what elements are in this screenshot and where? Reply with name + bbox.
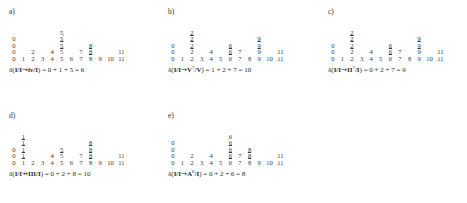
axis-tick: 4	[206, 160, 216, 167]
formula-target-chord: III/I	[28, 170, 41, 178]
distance-formula: δ(I/I→V7/V) = 1 + 2 + 7 = 10	[168, 66, 286, 74]
panel-spacer	[328, 17, 446, 30]
formula-source-chord: I/I	[174, 170, 181, 178]
axis-tick: 6	[67, 160, 77, 167]
lattice-row: 0269	[328, 43, 446, 50]
axis-tick: 0	[168, 56, 178, 63]
axis-tick: 9	[254, 160, 264, 167]
axis-tick: 9	[95, 56, 105, 63]
formula-result: = 10	[237, 66, 251, 74]
axis-tick: 8	[86, 160, 96, 167]
axis-tick: 2	[28, 56, 38, 63]
axis-row: 01234567891011	[168, 56, 286, 63]
lattice-row: 18	[9, 140, 127, 147]
formula-result: = 8	[234, 170, 245, 178]
lattice-row: 6	[168, 134, 286, 141]
axis-tick: 6	[67, 56, 77, 63]
panel-label: a)	[9, 8, 127, 16]
axis-tick: 7	[76, 56, 86, 63]
formula-terms: 0 + 2 + 6	[209, 170, 234, 178]
lattice-row: 0269	[168, 43, 286, 50]
axis-tick: 2	[187, 160, 197, 167]
lattice-row: 2	[328, 30, 446, 37]
axis-tick: 5	[376, 56, 386, 63]
axis-tick: 1	[178, 160, 188, 167]
formula-result: = 6	[73, 66, 84, 74]
axis-tick: 2	[28, 160, 38, 167]
axis-tick: 0	[168, 160, 178, 167]
lattice-row: 06	[168, 140, 286, 147]
axis-tick: 8	[405, 56, 415, 63]
formula-equals: =	[202, 170, 209, 178]
axis-tick: 5	[216, 160, 226, 167]
formula-source-chord: I/I	[15, 66, 22, 74]
axis-tick: 10	[105, 56, 116, 63]
axis-tick: 2	[187, 56, 197, 63]
formula-equals: =	[43, 170, 50, 178]
axis-tick: 8	[245, 160, 255, 167]
axis-tick: 5	[57, 160, 67, 167]
axis-tick: 8	[86, 56, 96, 63]
axis-tick: 9	[254, 56, 264, 63]
formula-result: = 10	[76, 170, 90, 178]
formula-source-chord: I/I	[334, 66, 341, 74]
lattice-grid: 22902690246791101234567891011	[328, 30, 446, 63]
axis-tick: 1	[338, 56, 348, 63]
lattice-row: 05	[9, 36, 127, 43]
panel-label: d)	[9, 112, 127, 120]
panel-d: d)11801580145781101234567891011δ(I/I⇸III…	[9, 112, 127, 178]
axis-tick: 4	[47, 160, 57, 167]
axis-tick: 6	[226, 160, 236, 167]
axis-tick: 8	[245, 56, 255, 63]
axis-row: 01234567891011	[328, 56, 446, 63]
lattice-grid: 22902690246791101234567891011	[168, 30, 286, 63]
axis-tick: 10	[264, 160, 275, 167]
axis-tick: 6	[226, 56, 236, 63]
axis-tick: 10	[424, 56, 435, 63]
axis-tick: 5	[216, 56, 226, 63]
axis-tick: 11	[275, 160, 286, 167]
axis-tick: 3	[197, 160, 207, 167]
formula-terms: 0 + 1 + 5	[48, 66, 73, 74]
panel-e: e)6060680246781101234567891011δ(I/I→A6/I…	[168, 112, 286, 178]
panel-label: c)	[328, 8, 446, 16]
axis-row: 01234567891011	[9, 160, 127, 167]
figure-sheet: a)5050580245781101234567891011δ(I/I→iv/I…	[0, 0, 467, 203]
formula-terms: 1 + 2 + 7	[211, 66, 236, 74]
panel-label: b)	[168, 8, 286, 16]
axis-tick: 7	[235, 56, 245, 63]
axis-tick: 3	[197, 56, 207, 63]
formula-target-chord: iv/I	[28, 66, 38, 74]
panel-c: c)22902690246791101234567891011δ(I/I→II7…	[328, 8, 446, 74]
panel-spacer	[168, 121, 286, 134]
panel-b: b)22902690246791101234567891011δ(I/I→V7/…	[168, 8, 286, 74]
axis-tick: 3	[357, 56, 367, 63]
distance-formula: δ(I/I→II7/I) = 0 + 2 + 7 = 9	[328, 66, 446, 74]
lattice-row: 29	[168, 36, 286, 43]
lattice-row: 058	[9, 43, 127, 50]
panel-spacer	[9, 121, 127, 134]
axis-tick: 3	[38, 160, 48, 167]
axis-tick: 9	[95, 160, 105, 167]
lattice-row: 068	[168, 147, 286, 154]
axis-tick: 1	[178, 56, 188, 63]
axis-tick: 1	[19, 160, 29, 167]
axis-tick: 9	[414, 56, 424, 63]
axis-tick: 10	[264, 56, 275, 63]
axis-tick: 11	[116, 160, 127, 167]
distance-formula: δ(I/I→A6/I) = 0 + 2 + 6 = 8	[168, 170, 286, 178]
formula-equals: =	[40, 66, 47, 74]
axis-row: 01234567891011	[9, 56, 127, 63]
panel-spacer	[168, 17, 286, 30]
axis-row: 01234567891011	[168, 160, 286, 167]
formula-source-chord: I/I	[174, 66, 181, 74]
lattice-grid: 6060680246781101234567891011	[168, 134, 286, 167]
axis-tick: 7	[76, 160, 86, 167]
lattice-row: 0158	[9, 147, 127, 154]
axis-tick: 7	[235, 160, 245, 167]
axis-tick: 4	[206, 56, 216, 63]
lattice-row: 5	[9, 30, 127, 37]
axis-tick: 4	[47, 56, 57, 63]
lattice-row: 29	[328, 36, 446, 43]
axis-tick: 7	[395, 56, 405, 63]
